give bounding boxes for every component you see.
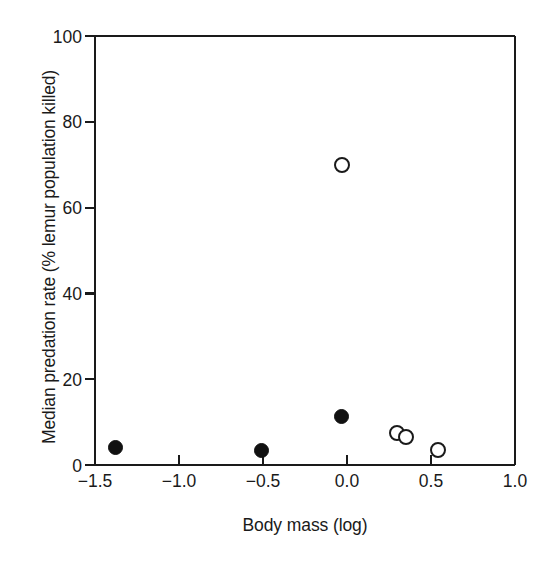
data-point-filled-circle-0 — [108, 440, 123, 455]
x-tick-label-0-5: 0.5 — [396, 473, 466, 491]
data-point-open-circle-2 — [398, 429, 414, 445]
scatter-plot-figure: 0 20 40 60 80 100 −1.5 −1.0 −0.5 0.0 0.5… — [0, 0, 549, 561]
y-axis-title: Median predation rate (% lemur populatio… — [34, 42, 64, 472]
x-tick-label-neg1-5: −1.5 — [60, 473, 130, 491]
x-axis-ticks — [95, 455, 515, 465]
x-tick-label-0-0: 0.0 — [312, 473, 382, 491]
x-tick-label-neg0-5: −0.5 — [228, 473, 298, 491]
x-tick-label-1-0: 1.0 — [480, 473, 549, 491]
y-axis-ticks — [85, 36, 95, 465]
data-point-open-circle-3 — [430, 442, 446, 458]
x-tick-label-neg1-0: −1.0 — [144, 473, 214, 491]
data-point-open-circle-0 — [334, 157, 350, 173]
x-axis-title: Body mass (log) — [95, 515, 515, 536]
